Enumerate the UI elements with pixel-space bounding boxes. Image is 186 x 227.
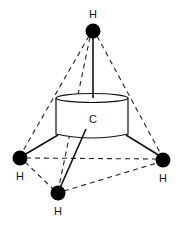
atom-h-front: [51, 186, 66, 201]
edge-left-front: [25, 162, 53, 189]
bond-right: [126, 135, 160, 156]
label-h-front: H: [54, 205, 62, 217]
edge-front-right: [64, 163, 157, 191]
atom-h-right: [156, 153, 171, 168]
label-carbon: C: [89, 113, 97, 125]
edge-left-right: [26, 158, 157, 159]
label-h-left: H: [16, 170, 24, 182]
atom-h-top: [86, 24, 101, 39]
methane-tetrahedron-diagram: H H H H C: [0, 0, 186, 227]
atom-h-left: [13, 151, 28, 166]
diagram-svg: H H H H C: [0, 0, 186, 227]
label-h-right: H: [159, 172, 167, 184]
label-h-top: H: [89, 8, 97, 20]
cylinder-top: [56, 94, 128, 103]
bond-left: [24, 135, 58, 155]
